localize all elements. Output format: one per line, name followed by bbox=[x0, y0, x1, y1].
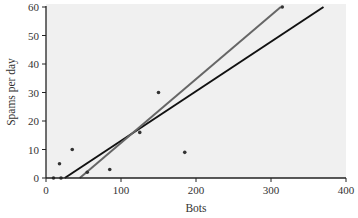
y-axis-label: Spams per day bbox=[5, 58, 18, 126]
data-point bbox=[157, 91, 161, 95]
data-point bbox=[280, 5, 284, 9]
x-tick-label: 200 bbox=[188, 184, 205, 196]
data-point bbox=[85, 171, 89, 175]
x-tick-label: 400 bbox=[338, 184, 355, 196]
data-point bbox=[70, 148, 74, 152]
y-tick-label: 20 bbox=[28, 115, 40, 127]
y-tick-label: 50 bbox=[28, 30, 40, 42]
data-point bbox=[183, 151, 187, 155]
y-tick-label: 60 bbox=[28, 1, 40, 13]
data-point bbox=[58, 162, 62, 166]
chart-root: 0102030405060 0100200300400 Bots Spams p… bbox=[0, 0, 358, 218]
y-tick-label: 10 bbox=[28, 144, 40, 156]
y-tick-label: 40 bbox=[28, 58, 40, 70]
x-axis-ticks: 0100200300400 bbox=[43, 178, 355, 196]
data-point bbox=[108, 168, 112, 172]
y-tick-label: 30 bbox=[28, 87, 40, 99]
data-point bbox=[138, 131, 142, 135]
y-axis-ticks: 0102030405060 bbox=[28, 1, 46, 184]
x-tick-label: 0 bbox=[43, 184, 49, 196]
y-tick-label: 0 bbox=[34, 172, 40, 184]
x-tick-label: 100 bbox=[113, 184, 130, 196]
x-axis-label: Bots bbox=[185, 202, 207, 214]
x-tick-label: 300 bbox=[263, 184, 280, 196]
